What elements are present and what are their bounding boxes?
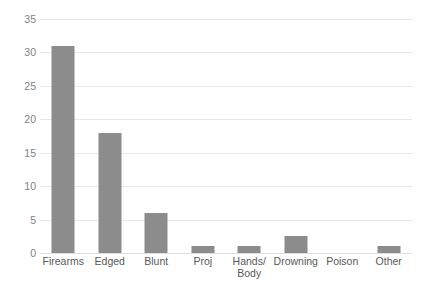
bar [191, 246, 214, 253]
bar-slot [273, 19, 320, 253]
y-tick-label-5: 5 [2, 214, 36, 225]
bar [377, 246, 400, 253]
y-tick-label-30: 30 [2, 47, 36, 58]
bar [284, 236, 307, 253]
x-axis-label: Edged [87, 255, 134, 267]
bar [238, 246, 261, 253]
x-axis-label: Other [366, 255, 413, 267]
x-axis-label: Proj [180, 255, 227, 267]
gridline-0 [40, 253, 412, 254]
y-axis-tick-labels: 05101520253035 [0, 19, 36, 253]
bar-slot [319, 19, 366, 253]
y-tick-label-0: 0 [2, 248, 36, 259]
bar [52, 46, 75, 253]
x-axis-label: Blunt [133, 255, 180, 267]
x-axis-label: Firearms [40, 255, 87, 267]
x-axis-label: Hands/ Body [226, 255, 273, 279]
bar [98, 133, 121, 253]
bar-series [40, 19, 412, 253]
bar-slot [366, 19, 413, 253]
bar-slot [180, 19, 227, 253]
bar-slot [40, 19, 87, 253]
y-tick-label-25: 25 [2, 81, 36, 92]
bar-slot [133, 19, 180, 253]
y-tick-label-15: 15 [2, 147, 36, 158]
y-tick-label-20: 20 [2, 114, 36, 125]
y-tick-label-10: 10 [2, 181, 36, 192]
x-axis-category-labels: FirearmsEdgedBluntProjHands/ BodyDrownin… [40, 255, 412, 293]
x-axis-label: Poison [319, 255, 366, 267]
bar-slot [87, 19, 134, 253]
x-axis-label: Drowning [273, 255, 320, 267]
bar-chart: 05101520253035 FirearmsEdgedBluntProjHan… [0, 0, 427, 293]
bar-slot [226, 19, 273, 253]
y-tick-label-35: 35 [2, 14, 36, 25]
bar [145, 213, 168, 253]
